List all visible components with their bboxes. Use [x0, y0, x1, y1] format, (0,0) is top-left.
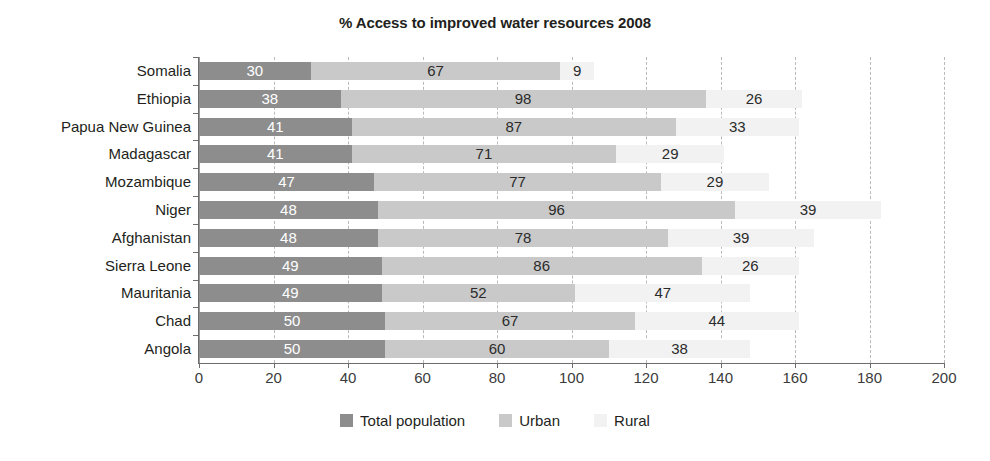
bar-row[interactable]: 389826	[199, 90, 944, 108]
x-axis-tick	[870, 363, 871, 368]
legend-swatch-icon	[594, 414, 607, 427]
y-axis-tick	[193, 196, 199, 197]
bar-row[interactable]: 506038	[199, 340, 944, 358]
y-axis-tick	[193, 113, 199, 114]
category-label: Mozambique	[105, 173, 191, 191]
y-axis-tick	[193, 57, 199, 58]
category-label: Angola	[144, 340, 191, 358]
chart-legend: Total populationUrbanRural	[0, 412, 990, 429]
legend-swatch-icon	[499, 414, 512, 427]
bar-value-label: 50	[284, 312, 301, 330]
bar-value-label: 41	[267, 145, 284, 163]
bar-row[interactable]: 477729	[199, 173, 944, 191]
bar-value-label: 77	[509, 173, 526, 191]
bar-value-label: 26	[742, 257, 759, 275]
x-axis-tick	[944, 363, 945, 368]
bar-value-label: 33	[729, 118, 746, 136]
bar-value-label: 30	[247, 62, 264, 80]
y-axis-tick	[193, 85, 199, 86]
bar-value-label: 71	[476, 145, 493, 163]
bar-value-label: 86	[533, 257, 550, 275]
plot-area: 0204060801001201401601802003067938982641…	[199, 57, 944, 363]
x-axis-tick-label: 120	[633, 369, 658, 386]
x-axis-tick	[348, 363, 349, 368]
category-label: Ethiopia	[137, 90, 191, 108]
legend-item[interactable]: Urban	[499, 412, 560, 429]
bar-value-label: 49	[282, 257, 299, 275]
category-label: Afghanistan	[112, 229, 191, 247]
bar-value-label: 67	[427, 62, 444, 80]
x-axis-tick-label: 0	[195, 369, 203, 386]
category-label: Mauritania	[121, 284, 191, 302]
x-axis-tick-label: 160	[782, 369, 807, 386]
x-axis-tick-label: 140	[708, 369, 733, 386]
x-axis-tick-label: 200	[931, 369, 956, 386]
bar-value-label: 48	[280, 229, 297, 247]
bar-value-label: 48	[280, 201, 297, 219]
bar-value-label: 26	[746, 90, 763, 108]
category-label: Sierra Leone	[105, 257, 191, 275]
bar-value-label: 98	[515, 90, 532, 108]
bar-row[interactable]: 489639	[199, 201, 944, 219]
legend-item[interactable]: Rural	[594, 412, 650, 429]
bar-value-label: 29	[707, 173, 724, 191]
legend-label: Urban	[519, 412, 560, 429]
y-axis-tick	[193, 335, 199, 336]
x-axis-tick-label: 180	[857, 369, 882, 386]
x-axis-tick	[795, 363, 796, 368]
bar-value-label: 78	[515, 229, 532, 247]
category-label: Niger	[155, 201, 191, 219]
x-axis-tick-label: 80	[489, 369, 506, 386]
legend-swatch-icon	[340, 414, 353, 427]
x-axis-tick	[721, 363, 722, 368]
y-axis-tick	[193, 140, 199, 141]
x-axis-tick-label: 100	[559, 369, 584, 386]
bar-row[interactable]: 417129	[199, 145, 944, 163]
bar-value-label: 9	[573, 62, 581, 80]
chart-container: % Access to improved water resources 200…	[0, 0, 990, 461]
legend-label: Total population	[360, 412, 465, 429]
bar-row[interactable]: 487839	[199, 229, 944, 247]
bar-value-label: 52	[470, 284, 487, 302]
bar-value-label: 38	[671, 340, 688, 358]
x-axis-tick	[274, 363, 275, 368]
x-axis-tick-label: 60	[414, 369, 431, 386]
bar-value-label: 39	[800, 201, 817, 219]
x-axis-tick	[646, 363, 647, 368]
bar-value-label: 50	[284, 340, 301, 358]
bar-value-label: 96	[548, 201, 565, 219]
bar-row[interactable]: 498626	[199, 257, 944, 275]
x-axis-tick-label: 40	[340, 369, 357, 386]
bar-value-label: 87	[505, 118, 522, 136]
bar-row[interactable]: 418733	[199, 118, 944, 136]
y-axis-tick	[193, 307, 199, 308]
y-axis-tick	[193, 280, 199, 281]
x-axis-tick	[423, 363, 424, 368]
y-axis-tick	[193, 224, 199, 225]
bar-row[interactable]: 30679	[199, 62, 944, 80]
y-axis-tick	[193, 168, 199, 169]
y-axis-tick	[193, 252, 199, 253]
bar-value-label: 49	[282, 284, 299, 302]
legend-item[interactable]: Total population	[340, 412, 465, 429]
legend-label: Rural	[614, 412, 650, 429]
y-axis-category-labels: SomaliaEthiopiaPapua New GuineaMadagasca…	[0, 57, 199, 363]
category-label: Papua New Guinea	[61, 118, 191, 136]
category-label: Somalia	[137, 62, 191, 80]
chart-title: % Access to improved water resources 200…	[0, 14, 990, 31]
bar-value-label: 60	[489, 340, 506, 358]
x-axis-tick	[199, 363, 200, 368]
category-label: Chad	[155, 312, 191, 330]
bar-value-label: 47	[278, 173, 295, 191]
bar-value-label: 38	[261, 90, 278, 108]
bar-value-label: 47	[654, 284, 671, 302]
bar-value-label: 41	[267, 118, 284, 136]
category-label: Madagascar	[108, 145, 191, 163]
bar-value-label: 44	[708, 312, 725, 330]
bar-value-label: 39	[733, 229, 750, 247]
bar-value-label: 29	[662, 145, 679, 163]
bar-row[interactable]: 506744	[199, 312, 944, 330]
x-axis-tick-label: 20	[265, 369, 282, 386]
bar-value-label: 67	[502, 312, 519, 330]
bar-row[interactable]: 495247	[199, 284, 944, 302]
